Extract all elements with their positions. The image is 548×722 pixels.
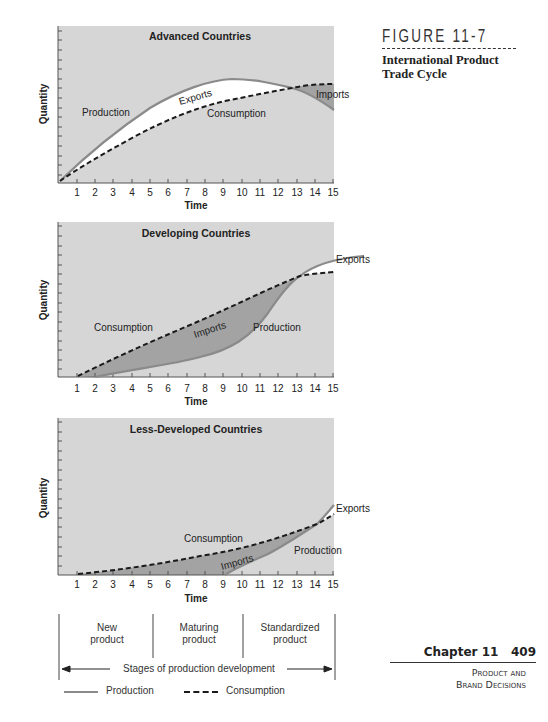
stages-caption: Stages of production development	[112, 663, 286, 674]
svg-text:14: 14	[309, 579, 321, 590]
svg-text:10: 10	[236, 187, 248, 198]
legend: Production Consumption	[64, 684, 364, 700]
legend-production-swatch	[64, 691, 98, 693]
label-production: Production	[253, 322, 301, 333]
svg-text:9: 9	[220, 383, 226, 394]
x-tick-labels: 1234 5678 9101112 131415	[74, 187, 339, 198]
svg-text:15: 15	[327, 187, 339, 198]
figure-rule	[382, 48, 516, 49]
label-exports: Exports	[336, 254, 370, 265]
svg-text:3: 3	[110, 383, 116, 394]
svg-text:8: 8	[202, 383, 208, 394]
y-axis-label: Quantity	[38, 477, 49, 518]
svg-text:8: 8	[202, 187, 208, 198]
x-tick-labels: 1234 5678 9101112 131415	[74, 579, 339, 590]
svg-text:5: 5	[147, 383, 153, 394]
figure-title: International Product Trade Cycle	[382, 53, 499, 81]
svg-text:1: 1	[74, 187, 80, 198]
svg-text:7: 7	[184, 579, 190, 590]
stages-diagram	[0, 600, 380, 722]
chapter-label: Chapter 11	[424, 645, 499, 659]
label-imports: Imports	[316, 89, 349, 100]
x-axis-label: Time	[184, 396, 208, 407]
section-title: Product and Brand Decisions	[400, 667, 526, 691]
svg-text:9: 9	[220, 187, 226, 198]
stage-maturing-product: Maturing product	[155, 622, 243, 646]
chart-less-developed-countries: Less-Developed Countries Consumption Imp…	[0, 410, 380, 610]
legend-consumption-swatch	[184, 691, 218, 693]
svg-text:12: 12	[272, 187, 284, 198]
legend-production-label: Production	[106, 685, 154, 696]
svg-text:15: 15	[327, 383, 339, 394]
svg-text:6: 6	[165, 187, 171, 198]
svg-text:7: 7	[184, 383, 190, 394]
chart-developing-countries: Developing Countries Consumption Imports…	[0, 210, 380, 410]
svg-text:5: 5	[147, 187, 153, 198]
svg-text:4: 4	[129, 579, 135, 590]
svg-text:10: 10	[236, 579, 248, 590]
svg-text:11: 11	[255, 187, 266, 198]
svg-text:5: 5	[147, 579, 153, 590]
chart-title: Developing Countries	[142, 227, 251, 239]
legend-consumption-label: Consumption	[226, 685, 285, 696]
x-tick-labels: 1234 5678 9101112 131415	[74, 383, 339, 394]
stage-new-product: New product	[62, 622, 152, 646]
svg-text:11: 11	[255, 383, 266, 394]
svg-text:14: 14	[309, 187, 321, 198]
chart-advanced-countries: Advanced Countries Production Exports Co…	[0, 0, 380, 210]
svg-text:1: 1	[74, 383, 80, 394]
svg-text:12: 12	[272, 579, 284, 590]
label-consumption: Consumption	[94, 322, 153, 333]
chapter-heading: Chapter 11 409	[416, 645, 536, 659]
svg-text:6: 6	[165, 383, 171, 394]
figure-number: FIGURE 11-7	[382, 26, 488, 47]
x-axis-label: Time	[184, 200, 208, 210]
svg-text:14: 14	[309, 383, 321, 394]
svg-text:4: 4	[129, 187, 135, 198]
label-consumption: Consumption	[184, 533, 243, 544]
svg-text:1: 1	[74, 579, 80, 590]
svg-text:9: 9	[220, 579, 226, 590]
svg-text:2: 2	[92, 187, 98, 198]
plot-area	[58, 418, 334, 575]
y-axis-label: Quantity	[38, 83, 49, 124]
y-axis-label: Quantity	[38, 279, 49, 320]
svg-text:13: 13	[291, 579, 303, 590]
page-number: 409	[511, 645, 536, 659]
svg-text:3: 3	[110, 187, 116, 198]
svg-text:2: 2	[92, 579, 98, 590]
chart-title: Advanced Countries	[149, 30, 251, 42]
label-production: Production	[82, 107, 130, 118]
label-exports: Exports	[336, 503, 370, 514]
svg-text:11: 11	[255, 579, 266, 590]
label-consumption: Consumption	[207, 108, 266, 119]
chapter-rule	[390, 662, 536, 663]
svg-text:3: 3	[110, 579, 116, 590]
chart-title: Less-Developed Countries	[130, 423, 263, 435]
svg-text:2: 2	[92, 383, 98, 394]
svg-text:6: 6	[165, 579, 171, 590]
svg-text:7: 7	[184, 187, 190, 198]
svg-text:12: 12	[272, 383, 284, 394]
svg-text:13: 13	[291, 187, 303, 198]
svg-text:15: 15	[327, 579, 339, 590]
stage-standardized-product: Standardized product	[244, 622, 336, 646]
svg-text:8: 8	[202, 579, 208, 590]
svg-text:10: 10	[236, 383, 248, 394]
svg-text:13: 13	[291, 383, 303, 394]
label-production: Production	[294, 545, 342, 556]
svg-text:4: 4	[129, 383, 135, 394]
